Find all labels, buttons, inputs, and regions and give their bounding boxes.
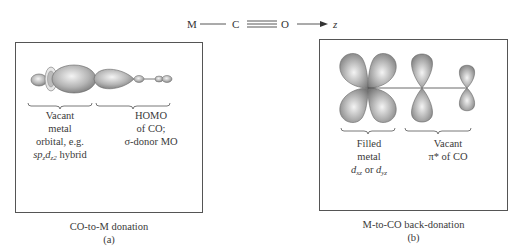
hybrid-notation: spzdz2 hybrid bbox=[21, 148, 99, 165]
label-line: σ-donor MO bbox=[106, 135, 196, 148]
label-line: Vacant bbox=[408, 137, 488, 150]
metal-orbital-label: Vacant metal orbital, e.g. spzdz2 hybrid bbox=[21, 109, 99, 165]
hybrid-text: hybrid bbox=[57, 149, 87, 160]
bond-axis-header: M C O z bbox=[0, 8, 518, 28]
caption-letter: (a) bbox=[15, 233, 203, 246]
caption-letter: (b) bbox=[319, 231, 508, 244]
or-text: or bbox=[362, 164, 376, 175]
label-line: metal bbox=[21, 122, 99, 135]
caption-text: CO-to-M donation bbox=[15, 220, 203, 233]
co-homo-orbital bbox=[94, 69, 172, 89]
panel-a-box: Vacant metal orbital, e.g. spzdz2 hybrid… bbox=[15, 42, 203, 213]
panel-a-caption: CO-to-M donation (a) bbox=[15, 220, 203, 246]
caption-text: M-to-CO back-donation bbox=[319, 218, 508, 231]
vacant-pi-star-label: Vacant π* of CO bbox=[408, 137, 488, 163]
arrow-head-icon bbox=[320, 21, 328, 27]
label-line: orbital, e.g. bbox=[21, 135, 99, 148]
label-line: HOMO bbox=[106, 109, 196, 122]
label-line: of CO; bbox=[106, 122, 196, 135]
label-line: Filled bbox=[334, 137, 404, 150]
label-line: Vacant bbox=[21, 109, 99, 122]
sp-text: sp bbox=[33, 149, 42, 160]
back-donation-orbitals bbox=[320, 40, 507, 135]
d-orbital-notation: dxz or dyz bbox=[334, 163, 404, 180]
brace-metal bbox=[341, 128, 395, 134]
filled-metal-label: Filled metal dxz or dyz bbox=[334, 137, 404, 180]
sub-yz: yz bbox=[381, 169, 387, 177]
atom-o: O bbox=[281, 18, 289, 30]
brace-co bbox=[405, 128, 471, 134]
panel-b-box: Filled metal dxz or dyz Vacant π* of CO bbox=[319, 39, 508, 211]
atom-c: C bbox=[232, 18, 239, 30]
label-line: π* of CO bbox=[408, 150, 488, 163]
panel-b-caption: M-to-CO back-donation (b) bbox=[319, 218, 508, 244]
bond-axis-diagram: M C O z bbox=[0, 8, 518, 32]
label-line: metal bbox=[334, 150, 404, 163]
co-homo-label: HOMO of CO; σ-donor MO bbox=[106, 109, 196, 148]
axis-label-z: z bbox=[332, 18, 338, 30]
metal-hybrid-orbital bbox=[31, 65, 96, 93]
atom-m: M bbox=[187, 18, 197, 30]
triple-bond-lines bbox=[247, 21, 277, 27]
